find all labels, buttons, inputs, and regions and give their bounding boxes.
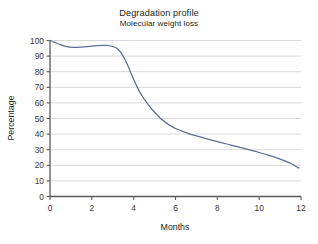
y-tick-label: 40 [35, 129, 45, 139]
chart-figure: Degradation profile Molecular weight los… [0, 0, 318, 244]
y-tick-label: 0 [39, 192, 44, 202]
x-tick-label: 10 [255, 203, 265, 213]
y-tick-label: 50 [35, 114, 45, 124]
x-tick-label: 0 [48, 203, 53, 213]
y-axis-label: Percentage [6, 95, 16, 140]
x-tick-label: 6 [173, 203, 178, 213]
series-line-molecular-weight-loss [50, 41, 299, 169]
y-tick-label: 90 [35, 51, 45, 61]
y-tick-label: 60 [35, 98, 45, 108]
y-tick-label: 100 [30, 36, 44, 46]
y-tick-label: 10 [35, 176, 45, 186]
x-axis-ticks: 024681012 [48, 197, 306, 213]
y-tick-label: 80 [35, 67, 45, 77]
y-tick-label: 30 [35, 145, 45, 155]
x-tick-label: 4 [131, 203, 136, 213]
line-chart-plot: 0102030405060708090100 024681012 Months … [0, 0, 318, 244]
y-tick-label: 70 [35, 82, 45, 92]
y-axis-ticks: 0102030405060708090100 [30, 36, 50, 202]
x-axis-label: Months [161, 222, 190, 232]
gridlines [50, 41, 301, 181]
x-tick-label: 2 [89, 203, 94, 213]
x-tick-label: 12 [296, 203, 306, 213]
y-tick-label: 20 [35, 160, 45, 170]
x-tick-label: 8 [215, 203, 220, 213]
